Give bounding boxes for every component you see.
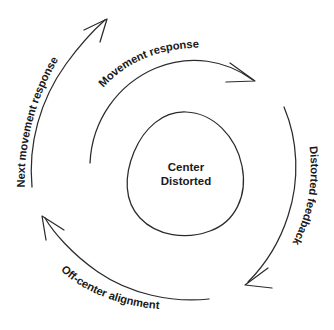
arc-distorted-feedback-line (248, 107, 296, 282)
arc-off-center-alignment-line (45, 218, 209, 300)
arc-label-movement-response: Movement response (96, 38, 199, 89)
arc-label-off-center-alignment: Off-center alignment (59, 263, 160, 311)
arc-off-center-alignment: Off-center alignment (42, 216, 209, 311)
arc-label-distorted-feedback: Distorted feedback (290, 146, 321, 248)
arc-next-movement-response: Next movement response (15, 19, 107, 188)
center-label-line2: Distorted (161, 175, 211, 187)
center-label-line1: Center (168, 161, 205, 173)
cycle-diagram: Center Distorted Movement response Disto… (0, 0, 334, 330)
diagram-canvas: Center Distorted Movement response Disto… (0, 0, 334, 330)
arc-distorted-feedback: Distorted feedback (245, 107, 321, 288)
arc-next-movement-response-line (31, 20, 105, 187)
arc-movement-response: Movement response (90, 38, 255, 163)
arrowhead-next-movement-response-icon (84, 19, 107, 42)
center-blob-group: Center Distorted (127, 112, 243, 236)
arc-label-next-movement-response: Next movement response (15, 55, 60, 188)
center-blob-shape (127, 112, 243, 236)
